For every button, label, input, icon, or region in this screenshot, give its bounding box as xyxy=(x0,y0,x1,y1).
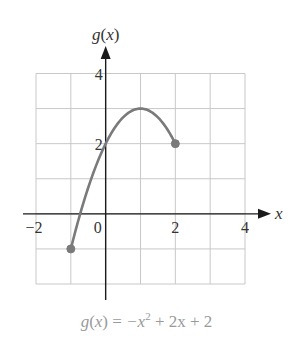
x-axis-label: x xyxy=(274,204,283,223)
endpoint-dot xyxy=(67,245,75,253)
x-tick-label: 0 xyxy=(94,219,102,236)
axis-labels: x g(x) xyxy=(92,25,283,223)
y-axis-label: g(x) xyxy=(92,25,119,44)
caption-term-rest: + 2x + 2 xyxy=(155,312,212,331)
x-tick-label: −2 xyxy=(25,219,42,236)
grid-lines xyxy=(36,74,245,285)
endpoint-dot xyxy=(171,140,179,148)
function-graph: x g(x) −202424 xyxy=(0,0,293,310)
curve-endpoints xyxy=(67,140,179,253)
y-tick-label: 4 xyxy=(95,66,103,83)
x-tick-label: 4 xyxy=(241,219,249,236)
caption-equals: = xyxy=(112,312,122,331)
x-tick-label: 2 xyxy=(171,219,179,236)
caption-term-1: −x xyxy=(126,312,145,331)
function-caption: g(x) = −x2 + 2x + 2 xyxy=(0,312,293,332)
caption-fn: g xyxy=(81,312,90,331)
axes xyxy=(23,46,271,300)
caption-exponent: 2 xyxy=(145,310,151,322)
y-axis-arrow-icon xyxy=(101,46,111,59)
tick-labels: −202424 xyxy=(25,66,249,236)
x-axis-arrow-icon xyxy=(258,209,271,219)
caption-var: x xyxy=(95,312,103,331)
